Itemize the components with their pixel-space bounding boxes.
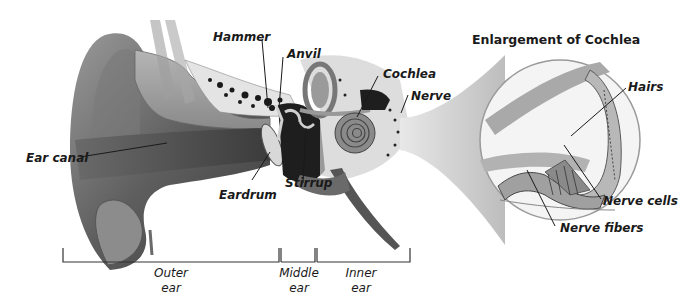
section-outer-ear: Outer ear: [145, 266, 197, 296]
label-hairs: Hairs: [628, 80, 663, 94]
section-inner-ear-line2: ear: [336, 281, 386, 296]
section-middle-ear-line1: Middle: [272, 266, 326, 281]
section-outer-ear-line2: ear: [145, 281, 197, 296]
diagram-title: Enlargement of Cochlea: [472, 32, 640, 47]
ear-anatomy-diagram: Enlargement of Cochlea Hammer Anvil Coch…: [0, 0, 690, 308]
section-middle-ear: Middle ear: [272, 266, 326, 296]
label-anvil: Anvil: [287, 47, 321, 61]
label-eardrum: Eardrum: [219, 188, 277, 202]
section-middle-ear-line2: ear: [272, 281, 326, 296]
section-outer-ear-line1: Outer: [145, 266, 197, 281]
label-cochlea: Cochlea: [383, 67, 436, 81]
section-inner-ear-line1: Inner: [336, 266, 386, 281]
label-nerve-fibers: Nerve fibers: [560, 221, 643, 235]
label-stirrup: Stirrup: [285, 176, 332, 190]
section-inner-ear: Inner ear: [336, 266, 386, 296]
label-hammer: Hammer: [213, 30, 270, 44]
label-nerve: Nerve: [411, 89, 451, 103]
label-ear-canal: Ear canal: [26, 151, 88, 165]
label-nerve-cells: Nerve cells: [603, 194, 678, 208]
